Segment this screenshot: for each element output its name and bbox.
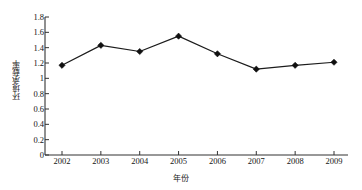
x-tick-label: 2008 — [275, 157, 315, 166]
x-tick-label: 2009 — [314, 157, 354, 166]
x-tick-label: 2005 — [159, 157, 199, 166]
data-point-marker — [214, 51, 220, 57]
data-point-marker — [98, 42, 104, 48]
data-point-marker — [137, 48, 143, 54]
x-axis-tick-labels: 20022003200420052006200720082009 — [0, 157, 362, 171]
data-point-marker — [59, 62, 65, 68]
x-axis-ticks — [62, 151, 334, 155]
data-point-marker — [175, 33, 181, 39]
line-chart-figure: 环境承载率 00.20.40.60.811.21.41.61.8 2002200… — [0, 0, 362, 190]
x-tick-label: 2004 — [120, 157, 160, 166]
x-tick-label: 2006 — [197, 157, 237, 166]
data-point-marker — [292, 62, 298, 68]
y-axis-ticks — [45, 17, 49, 155]
data-point-marker — [253, 66, 259, 72]
x-tick-label: 2007 — [236, 157, 276, 166]
x-tick-label: 2003 — [81, 157, 121, 166]
axis-lines — [45, 17, 348, 155]
data-point-markers — [59, 33, 337, 72]
data-point-marker — [331, 59, 337, 65]
x-tick-label: 2002 — [42, 157, 82, 166]
x-axis-title: 年份 — [0, 172, 362, 183]
